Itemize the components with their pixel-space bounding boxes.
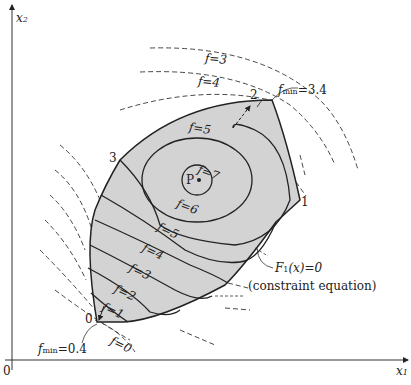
constraint-description: (constraint equation)	[248, 280, 376, 292]
center-point-p	[197, 178, 201, 182]
center-p-label: P	[186, 174, 194, 186]
vertex-1-label: 1	[301, 196, 309, 208]
vertex-0-label: 0	[85, 313, 93, 325]
constraint-equation-label: F1(x)=0	[275, 262, 322, 274]
fmin-bottom-leader	[82, 324, 97, 343]
fmin-bottom-annotation: fmin=0.4	[38, 343, 87, 355]
x2-axis-label: x2	[16, 12, 28, 24]
contour-label-outer-f3: f=3	[204, 52, 227, 66]
origin-label: 0	[3, 365, 11, 377]
fmin-top-annotation: fmin=3.4	[278, 84, 327, 96]
contour-label-outer-f4: f=4	[197, 75, 220, 89]
x1-axis-label: x1	[396, 365, 408, 377]
vertex-2-label: 2	[250, 89, 258, 101]
contour-label-f5-top: f=5	[188, 121, 212, 136]
vertex-3-label: 3	[109, 152, 117, 164]
